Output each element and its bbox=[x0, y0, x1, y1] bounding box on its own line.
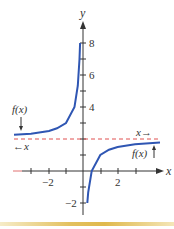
annot-left-fx: f(x) bbox=[12, 103, 28, 116]
curve-right-branch bbox=[87, 143, 160, 204]
bottom-accent-bar bbox=[0, 222, 174, 226]
annot-right-x: x→ bbox=[135, 126, 152, 138]
x-axis-label: x bbox=[165, 164, 172, 178]
annot-right-up-arrowhead-icon bbox=[152, 145, 156, 150]
y-tick-label-neg2: −2 bbox=[65, 197, 77, 209]
chart-figure: x y −2 2 8 6 4 −2 f(x) ←x x→ f(x) bbox=[0, 0, 174, 229]
x-tick-label-neg2: −2 bbox=[42, 176, 54, 188]
y-tick-label-4: 4 bbox=[89, 101, 95, 113]
annot-left-down-arrowhead-icon bbox=[19, 126, 23, 131]
y-tick-label-8: 8 bbox=[89, 37, 95, 49]
curve-left-branch bbox=[14, 43, 80, 135]
y-axis-label: y bbox=[79, 6, 86, 20]
y-axis-arrow-icon bbox=[80, 21, 86, 29]
y-tick-label-6: 6 bbox=[89, 69, 95, 81]
annot-right-fx: f(x) bbox=[132, 147, 148, 160]
x-axis-arrow-icon bbox=[156, 168, 164, 174]
annot-left-x: ←x bbox=[13, 140, 29, 152]
x-tick-label-2: 2 bbox=[115, 176, 121, 188]
